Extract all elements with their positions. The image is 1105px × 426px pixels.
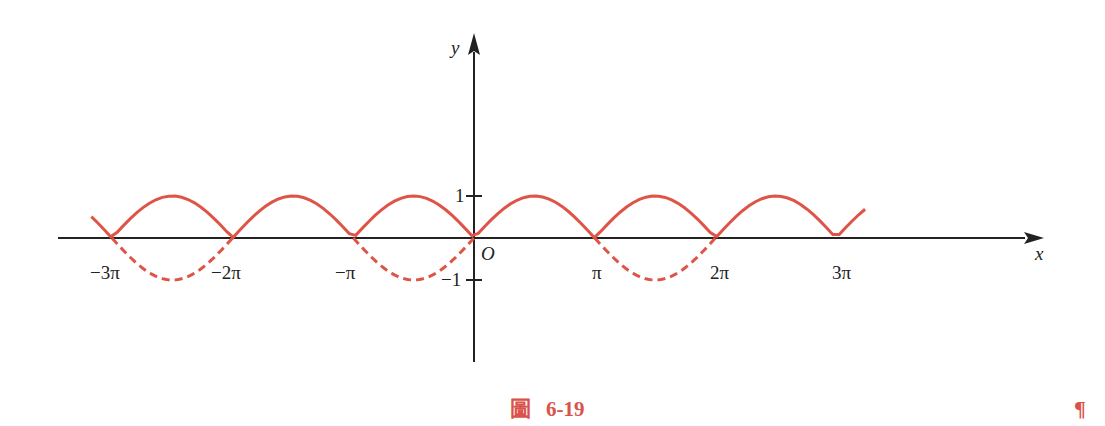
- caption-prefix: 圖: [510, 397, 531, 421]
- sin-negative-dashed-2: [595, 238, 716, 280]
- x-tick-label-2pi: 2π: [710, 262, 730, 283]
- x-tick-label-neg3pi: −3π: [90, 262, 120, 283]
- y-tick-label-1: 1: [455, 185, 465, 206]
- x-tick-label-3pi: 3π: [832, 262, 852, 283]
- abs-sin-curve: [91, 196, 865, 238]
- x-tick-label-neg2pi: −2π: [211, 262, 241, 283]
- x-tick-label-negpi: −π: [335, 262, 356, 283]
- figure-caption: 圖 6-19: [510, 397, 585, 421]
- caption-number: 6-19: [546, 397, 585, 421]
- x-tick-label-pi: π: [592, 262, 602, 283]
- axes: [58, 33, 1044, 362]
- graph-canvas: y x O 1 −1 −3π −2π −π π 2π 3π 圖 6-19 ¶: [0, 0, 1105, 426]
- x-axis-label: x: [1034, 243, 1044, 264]
- y-tick-label-neg1: −1: [441, 269, 461, 290]
- paragraph-mark-icon: ¶: [1074, 396, 1086, 421]
- y-axis-arrow-icon: [468, 33, 480, 55]
- y-axis-label: y: [449, 37, 460, 58]
- origin-label: O: [481, 243, 495, 264]
